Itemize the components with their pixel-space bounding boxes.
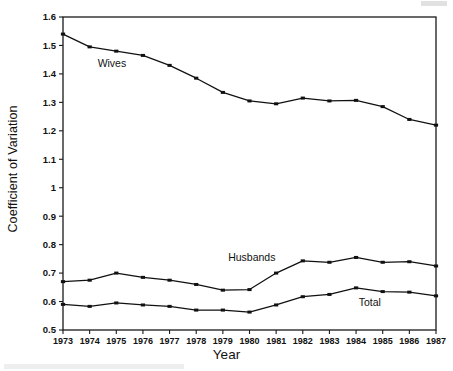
y-tick-label: 0.6 bbox=[43, 296, 56, 307]
data-point-total bbox=[221, 309, 225, 312]
data-point-husbands bbox=[114, 272, 118, 275]
line-chart-plot: 0.50.60.70.80.911.11.21.31.41.51.6197319… bbox=[0, 0, 453, 345]
data-point-wives bbox=[167, 64, 171, 67]
data-point-wives bbox=[114, 50, 118, 53]
x-tick-label: 1985 bbox=[373, 336, 393, 345]
data-point-wives bbox=[434, 124, 438, 127]
y-tick-label: 0.7 bbox=[43, 267, 56, 278]
data-point-total bbox=[194, 309, 198, 312]
data-point-husbands bbox=[434, 264, 438, 267]
x-tick-label: 1974 bbox=[80, 336, 100, 345]
y-tick-label: 1.3 bbox=[43, 97, 56, 108]
data-point-husbands bbox=[221, 289, 225, 292]
data-point-wives bbox=[301, 97, 305, 100]
data-point-husbands bbox=[167, 279, 171, 282]
series-label-husbands: Husbands bbox=[228, 251, 275, 263]
x-tick-label: 1984 bbox=[346, 336, 366, 345]
data-point-wives bbox=[88, 45, 92, 48]
data-point-wives bbox=[407, 118, 411, 121]
data-point-husbands bbox=[407, 260, 411, 263]
data-point-total bbox=[61, 303, 65, 306]
y-tick-label: 1.4 bbox=[43, 68, 57, 79]
data-point-husbands bbox=[194, 283, 198, 286]
data-point-total bbox=[407, 291, 411, 294]
data-point-husbands bbox=[61, 280, 65, 283]
y-tick-label: 0.8 bbox=[43, 239, 56, 250]
data-point-husbands bbox=[301, 259, 305, 262]
y-tick-label: 1 bbox=[51, 182, 57, 193]
x-tick-label: 1976 bbox=[133, 336, 153, 345]
x-tick-label: 1978 bbox=[186, 336, 206, 345]
y-tick-label: 1.2 bbox=[43, 125, 56, 136]
scan-artifact-bottom bbox=[4, 364, 184, 369]
x-tick-label: 1987 bbox=[426, 336, 446, 345]
data-point-husbands bbox=[141, 276, 145, 279]
data-point-wives bbox=[61, 33, 65, 36]
data-point-wives bbox=[194, 77, 198, 80]
x-tick-label: 1979 bbox=[213, 336, 233, 345]
data-point-total bbox=[247, 311, 251, 314]
data-point-wives bbox=[381, 105, 385, 108]
scan-artifact-top bbox=[421, 1, 447, 6]
chart-figure: Coefficient of Variation 0.50.60.70.80.9… bbox=[0, 0, 453, 371]
x-tick-label: 1977 bbox=[160, 336, 180, 345]
x-tick-label: 1973 bbox=[53, 336, 73, 345]
x-tick-label: 1982 bbox=[293, 336, 313, 345]
data-point-husbands bbox=[381, 261, 385, 264]
x-tick-label: 1986 bbox=[399, 336, 419, 345]
data-point-total bbox=[114, 301, 118, 304]
y-tick-label: 1.5 bbox=[43, 40, 57, 51]
x-tick-label: 1975 bbox=[106, 336, 126, 345]
series-label-wives: Wives bbox=[98, 57, 127, 69]
x-tick-label: 1981 bbox=[266, 336, 286, 345]
data-point-husbands bbox=[327, 261, 331, 264]
data-point-total bbox=[88, 305, 92, 308]
data-point-total bbox=[141, 303, 145, 306]
data-point-husbands bbox=[88, 279, 92, 282]
data-point-total bbox=[274, 303, 278, 306]
y-axis-title: Coefficient of Variation bbox=[6, 69, 20, 269]
data-point-total bbox=[167, 305, 171, 308]
data-point-total bbox=[381, 290, 385, 293]
data-point-husbands bbox=[247, 288, 251, 291]
y-tick-label: 0.9 bbox=[43, 211, 56, 222]
data-point-wives bbox=[274, 102, 278, 105]
x-tick-label: 1980 bbox=[239, 336, 259, 345]
series-label-total: Total bbox=[359, 296, 381, 308]
y-tick-label: 0.5 bbox=[43, 324, 57, 335]
data-point-total bbox=[354, 286, 358, 289]
data-point-wives bbox=[141, 54, 145, 57]
x-axis-title: Year bbox=[0, 347, 453, 362]
data-point-husbands bbox=[274, 272, 278, 275]
data-point-total bbox=[327, 293, 331, 296]
data-point-wives bbox=[327, 99, 331, 102]
data-point-wives bbox=[247, 99, 251, 102]
data-point-total bbox=[301, 295, 305, 298]
data-point-husbands bbox=[354, 256, 358, 259]
y-tick-label: 1.1 bbox=[43, 154, 57, 165]
series-line-wives bbox=[63, 34, 436, 125]
data-point-wives bbox=[221, 91, 225, 94]
y-tick-label: 1.6 bbox=[43, 11, 56, 22]
x-tick-label: 1983 bbox=[319, 336, 339, 345]
data-point-wives bbox=[354, 99, 358, 102]
data-point-total bbox=[434, 294, 438, 297]
